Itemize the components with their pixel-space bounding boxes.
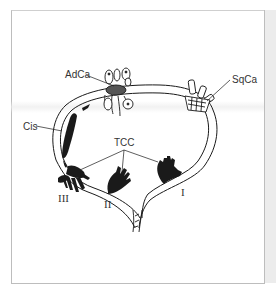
sqca-tumor	[185, 80, 215, 112]
cis-lesion	[62, 104, 90, 168]
stage-2-label: II	[104, 198, 112, 210]
urethra	[133, 210, 142, 232]
cis-leader	[36, 126, 62, 131]
cis-label: Cis	[23, 121, 37, 132]
sqca-leader	[207, 80, 230, 101]
tcc-stage-2-tumor	[107, 166, 131, 194]
bladder-diagram: AdCa SqCa Cis TCC III II I	[0, 0, 276, 289]
tcc-label: TCC	[114, 137, 135, 148]
stage-1-label: I	[181, 186, 185, 198]
tcc-leader-stage-1	[124, 150, 158, 162]
sqca-label: SqCa	[232, 74, 257, 85]
adca-tumor	[104, 68, 133, 116]
tcc-leader-stage-3	[80, 150, 124, 170]
tcc-stage-3-tumor	[58, 165, 90, 192]
adca-label: AdCa	[65, 69, 90, 80]
tcc-stage-1-tumor	[157, 156, 182, 184]
stage-3-label: III	[58, 192, 69, 204]
